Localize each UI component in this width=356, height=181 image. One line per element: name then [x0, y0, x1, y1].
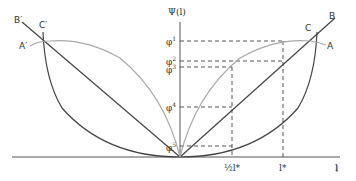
curve-A-prime [30, 41, 180, 157]
dashed-guides [180, 41, 283, 157]
label-B-prime: B′ [14, 16, 22, 25]
tick-l-star: l* [279, 164, 286, 173]
label-C-prime: C′ [39, 21, 47, 30]
tick-phi3: φ3 [166, 64, 176, 75]
label-C: C [305, 24, 311, 33]
line-B-prime [22, 22, 180, 157]
tick-phi4: φ4 [166, 102, 176, 113]
tick-phi1: φ1 [166, 36, 176, 47]
diagram-canvas [0, 0, 356, 181]
line-B [180, 18, 335, 157]
y-axis-label: Ψ(l) [168, 8, 186, 17]
x-axis-label: l [335, 164, 338, 173]
curve-C-prime [43, 32, 180, 157]
label-A-prime: A′ [19, 42, 27, 51]
tick-phi5: φ5 [166, 142, 176, 153]
label-B: B [329, 12, 335, 21]
curve-A [180, 41, 326, 157]
label-A: A [327, 42, 333, 51]
tick-half-l-star: ½l* [224, 164, 240, 173]
